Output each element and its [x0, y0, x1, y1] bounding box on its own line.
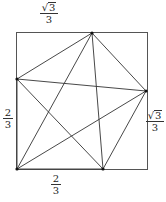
edge-left-right	[17, 79, 146, 91]
edge-left-bottom	[17, 79, 103, 169]
vertex-bottom_left	[15, 167, 18, 170]
label-bottom-two-thirds: 2 3	[45, 173, 67, 196]
label-left-two-thirds: 2 3	[0, 107, 19, 130]
vertex-right	[144, 89, 147, 92]
edge-top-bottom	[92, 33, 103, 169]
bounding-square	[17, 33, 148, 170]
edge-top-left	[17, 33, 92, 79]
vertex-top	[90, 31, 93, 34]
label-top-sqrt3-over-3: √3 3	[38, 2, 60, 25]
geometry-diagram	[0, 0, 166, 202]
vertex-left	[15, 77, 18, 80]
vertex-bottom	[101, 167, 104, 170]
edge-right-bottom_left	[17, 91, 146, 169]
pentagon-edges	[17, 33, 146, 169]
label-right-sqrt3-over-3: √3 3	[144, 110, 166, 133]
edge-top-right	[92, 33, 146, 91]
edge-right-bottom	[103, 91, 146, 169]
edge-top-bottom_left	[17, 33, 92, 169]
